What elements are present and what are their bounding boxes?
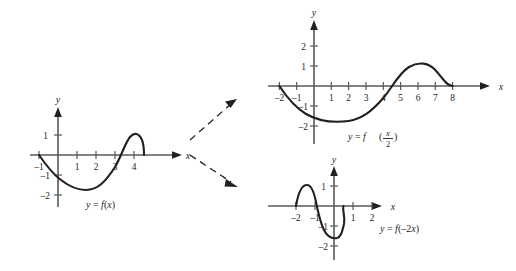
- x-axis: [30, 151, 182, 159]
- y-tick-label: –1: [40, 171, 51, 181]
- x-tick-label: –2: [290, 213, 301, 223]
- transformation-figure: –1 1 2 3 4 1 –1 –2 x y y = f(x): [0, 0, 516, 271]
- y-tick-label: –2: [40, 191, 51, 201]
- y-axis: [54, 107, 62, 207]
- svg-text:2: 2: [386, 139, 390, 149]
- svg-text:x: x: [385, 128, 390, 138]
- y-tick-label: 1: [321, 182, 326, 192]
- x-tick-label: 1: [351, 213, 356, 223]
- y-axis-label: y: [55, 94, 61, 105]
- svg-text:y = f: y = f: [347, 131, 367, 142]
- svg-text:(: (: [379, 131, 383, 143]
- x-axis-label: x: [185, 150, 191, 161]
- y-axis-label: y: [311, 7, 317, 18]
- svg-text:): ): [394, 131, 397, 143]
- curve-label-stretch: y = f ( x 2 ): [347, 128, 397, 149]
- curve-f-x: [39, 134, 144, 190]
- y-axis-label: y: [331, 154, 337, 165]
- y-tick-label: 1: [43, 131, 48, 141]
- curve-label-original: y = f(x): [85, 199, 115, 211]
- x-tick-label: 8: [450, 93, 455, 103]
- curve-label-reflect: y = f(–2x): [379, 223, 419, 235]
- x-tick-label: 1: [75, 162, 80, 172]
- x-tick-label: 5: [398, 93, 403, 103]
- x-tick-label: –2: [274, 93, 285, 103]
- y-tick-label: –1: [298, 102, 309, 112]
- x-tick-label: 2: [370, 213, 375, 223]
- x-tick-label: 7: [433, 93, 438, 103]
- x-axis: [268, 202, 382, 210]
- y-tick-label: 2: [301, 42, 306, 52]
- x-tick-label: 3: [364, 93, 369, 103]
- x-tick-label: 6: [416, 93, 421, 103]
- y-tick-label: 1: [301, 62, 306, 72]
- x-axis-label: x: [390, 201, 396, 212]
- graph-horizontal-stretch: –2 –1 1 2 3 4 5 6 7 8 2 1 –1 –2 x y y = …: [262, 4, 514, 150]
- graph-original: –1 1 2 3 4 1 –1 –2 x y y = f(x): [20, 95, 200, 215]
- x-tick-label: 4: [132, 162, 137, 172]
- x-axis-label: x: [498, 81, 504, 92]
- y-tick-label: –2: [318, 242, 329, 252]
- y-tick-label: –2: [298, 122, 309, 132]
- x-tick-label: 1: [329, 93, 334, 103]
- x-tick-label: 2: [346, 93, 351, 103]
- x-tick-label: 2: [94, 162, 99, 172]
- x-axis: [268, 82, 490, 90]
- graph-reflect-compress: –2 –1 1 2 1 –1 –2 x y y = f(–2x): [262, 160, 452, 268]
